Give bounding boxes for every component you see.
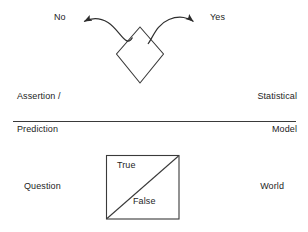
branch-label-yes: Yes (210, 12, 225, 23)
caption-statistical-model-line2: Model (257, 124, 297, 135)
branch-label-no: No (54, 12, 66, 23)
caption-assertion-prediction: Assertion / Prediction (17, 69, 61, 157)
caption-statistical-model-line1: Statistical (257, 91, 297, 102)
caption-world: World (260, 181, 284, 192)
caption-statistical-model: Statistical Model (257, 69, 297, 157)
diagram-canvas: No Yes Assertion / Prediction Statistica… (0, 0, 308, 232)
branch-arrow-no (84, 19, 133, 41)
decision-diamond (117, 27, 164, 83)
caption-question: Question (24, 181, 61, 192)
truth-square-label-true: True (117, 160, 136, 171)
truth-square-label-false: False (133, 196, 156, 207)
branch-arrow-yes (148, 17, 194, 44)
caption-assertion-prediction-line2: Prediction (17, 124, 61, 135)
caption-assertion-prediction-line1: Assertion / (17, 91, 61, 102)
